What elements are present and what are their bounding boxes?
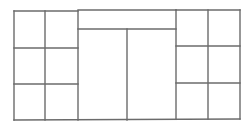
- diagram-lines: [14, 10, 240, 120]
- grid-diagram: [0, 0, 247, 130]
- frame-bottom: [14, 119, 240, 120]
